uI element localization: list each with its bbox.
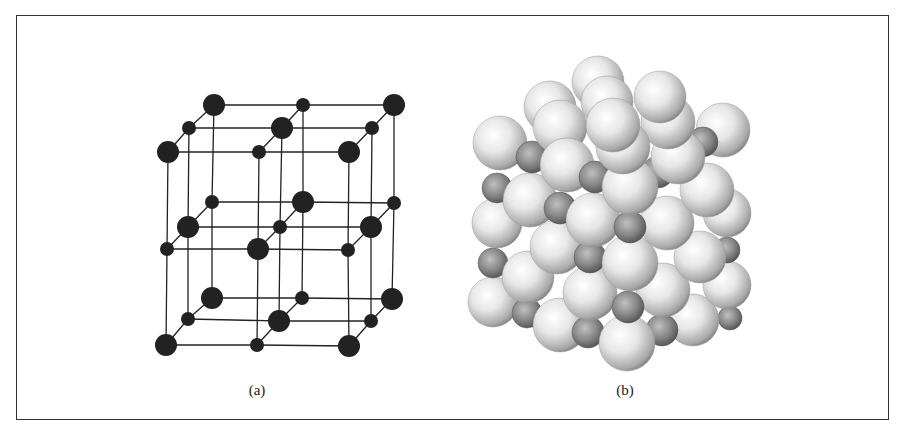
panel-b-caption: (b) <box>616 382 634 399</box>
lattice-bond <box>258 249 348 250</box>
small-sphere <box>614 211 646 243</box>
lattice-bond <box>371 128 372 227</box>
small-atom <box>341 243 355 257</box>
small-atom <box>182 121 196 135</box>
large-atom <box>360 216 382 238</box>
lattice-bond <box>167 152 168 249</box>
large-atom <box>247 238 269 260</box>
large-sphere <box>634 71 686 123</box>
large-atom <box>155 334 177 356</box>
lattice-bond <box>257 345 349 346</box>
large-atom <box>268 310 290 332</box>
large-atom <box>338 335 360 357</box>
small-atom <box>250 338 264 352</box>
lattice-bond <box>166 249 167 345</box>
small-sphere <box>612 291 644 323</box>
lattice-bond <box>279 227 280 321</box>
small-atom <box>181 312 195 326</box>
lattice-bond <box>303 202 394 203</box>
space-filling-model <box>468 56 751 371</box>
large-atom <box>292 191 314 213</box>
small-atom <box>296 98 310 112</box>
large-atom <box>157 141 179 163</box>
panel-a-caption: (a) <box>249 382 266 399</box>
crystal-structure-figure <box>0 0 909 431</box>
small-atom <box>295 291 309 305</box>
ball-and-stick-lattice <box>155 94 405 357</box>
small-atom <box>160 242 174 256</box>
small-atom <box>387 196 401 210</box>
small-atom <box>364 314 378 328</box>
large-atom <box>201 287 223 309</box>
large-atom <box>203 94 225 116</box>
large-atom <box>338 141 360 163</box>
small-sphere <box>718 306 742 330</box>
large-atom <box>271 117 293 139</box>
lattice-bond <box>302 298 392 299</box>
lattice-bond <box>258 152 259 249</box>
lattice-bond <box>348 152 349 250</box>
small-atom <box>273 220 287 234</box>
lattice-bond <box>188 319 279 321</box>
lattice-bond <box>212 105 214 202</box>
large-atom <box>383 94 405 116</box>
large-atom <box>381 288 403 310</box>
small-atom <box>365 121 379 135</box>
large-sphere <box>599 315 655 371</box>
lattice-bond <box>188 128 189 227</box>
small-atom <box>205 195 219 209</box>
lattice-bond <box>392 203 394 299</box>
lattice-bond <box>257 249 258 345</box>
lattice-bond <box>280 128 282 227</box>
large-atom <box>177 216 199 238</box>
large-sphere <box>586 98 640 152</box>
small-atom <box>252 145 266 159</box>
